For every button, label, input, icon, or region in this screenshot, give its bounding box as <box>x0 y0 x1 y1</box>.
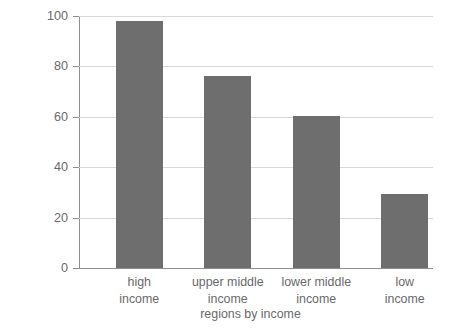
x-tick-label: lowincome <box>345 274 457 307</box>
bar <box>116 21 163 268</box>
x-axis-title-text: regions by income <box>200 307 301 321</box>
plot-area <box>79 16 433 268</box>
y-tick-label: 0 <box>28 261 68 275</box>
x-tick-label-line: low <box>345 274 457 291</box>
gridline <box>79 16 433 17</box>
y-tick-label: 60 <box>28 110 68 124</box>
bar-chart: % population with access to safely manag… <box>0 0 457 335</box>
y-tick-label: 20 <box>28 211 68 225</box>
y-tick-label: 100 <box>28 9 68 23</box>
y-tick-label: 40 <box>28 160 68 174</box>
y-tick-label: 80 <box>28 59 68 73</box>
bar <box>293 116 340 268</box>
x-axis-title: regions by income <box>0 307 457 321</box>
x-axis-spine <box>79 268 433 269</box>
bar <box>204 76 251 268</box>
x-tick-label-line: income <box>345 291 457 308</box>
bar <box>381 194 428 268</box>
